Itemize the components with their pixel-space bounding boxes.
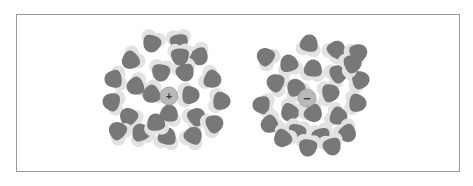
- negative-ion-solvation-shell: −: [251, 32, 373, 159]
- oxygen-lobe: [212, 91, 231, 111]
- water-molecule: [177, 82, 200, 108]
- ion-charge-sign: +: [166, 90, 172, 102]
- positive-ion-solvation-shell: +: [99, 27, 231, 153]
- water-molecule: [103, 65, 128, 93]
- water-molecule: [294, 133, 321, 158]
- figure-root: + −: [0, 0, 473, 186]
- solvation-diagram-canvas: + −: [0, 0, 473, 186]
- central-ion: −: [298, 89, 316, 107]
- ion-charge-sign: −: [303, 91, 311, 106]
- oxygen-lobe: [298, 138, 318, 157]
- water-molecule: [195, 62, 226, 94]
- water-molecule: [137, 27, 168, 56]
- oxygen-lobe: [182, 86, 200, 105]
- water-molecule: [147, 58, 175, 83]
- water-molecule: [299, 58, 326, 83]
- water-molecule: [294, 32, 323, 58]
- central-ion: +: [160, 87, 178, 105]
- oxygen-lobe: [348, 93, 367, 113]
- water-molecule: [207, 87, 232, 114]
- oxygen-lobe: [303, 59, 323, 78]
- oxygen-lobe: [253, 44, 278, 69]
- water-molecule: [343, 89, 368, 116]
